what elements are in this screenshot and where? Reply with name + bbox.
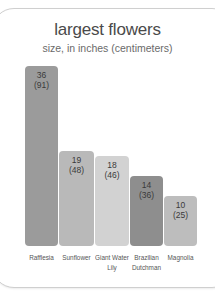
x-label-line: Brazilian xyxy=(127,253,165,263)
bar-rafflesia: 36(91) xyxy=(25,66,58,246)
bar-sunflower: 19(48) xyxy=(59,151,94,246)
chart-subtitle: size, in inches (centimeters) xyxy=(0,42,215,54)
x-label-line: Giant Water xyxy=(92,253,131,263)
x-label-line: Rafflesia xyxy=(22,253,60,263)
bar-magnolia: 10(25) xyxy=(164,196,197,246)
bar-value-cm: (46) xyxy=(95,170,129,180)
bar-value-inches: 14 xyxy=(130,180,163,190)
x-label-line: Dutchman xyxy=(127,263,165,273)
bar-value-cm: (25) xyxy=(164,210,197,220)
x-axis-label: Sunflower xyxy=(57,253,97,263)
x-label-line: Magnolia xyxy=(161,253,199,263)
bar-value-inches: 36 xyxy=(25,70,58,80)
bar-giant-water-lily: 18(46) xyxy=(95,156,129,246)
x-label-line: Sunflower xyxy=(57,253,97,263)
bar-value-cm: (36) xyxy=(130,190,163,200)
bar-brazilian-dutchman: 14(36) xyxy=(130,176,163,246)
chart-title: largest flowers xyxy=(0,20,215,40)
x-label-line: Lily xyxy=(92,263,131,273)
bar-value-cm: (48) xyxy=(59,165,94,175)
x-axis-label: Magnolia xyxy=(161,253,199,263)
bar-value-inches: 18 xyxy=(95,160,129,170)
bar-value-inches: 19 xyxy=(59,155,94,165)
bar-value-cm: (91) xyxy=(25,80,58,90)
x-axis-label: Rafflesia xyxy=(22,253,60,263)
x-axis-label: Giant WaterLily xyxy=(92,253,131,273)
x-axis-label: BrazilianDutchman xyxy=(127,253,165,273)
bar-value-inches: 10 xyxy=(164,200,197,210)
